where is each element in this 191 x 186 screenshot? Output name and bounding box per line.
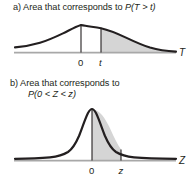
panel-b-axis-label: Z xyxy=(178,155,186,166)
panel-b-plot: Z 0 z xyxy=(0,98,191,186)
panel-a-density-curve xyxy=(15,25,176,52)
panel-a-tick-label-t: t xyxy=(99,57,102,68)
panel-a-caption-formula: P(T > t) xyxy=(125,2,155,12)
panel-a-plot: T 0 t xyxy=(0,14,191,76)
panel-a-caption: a) Area that corresponds to P(T > t) xyxy=(13,2,155,13)
panel-b-tick-label-z: z xyxy=(118,165,124,176)
panel-b-caption-line1: b) Area that corresponds to xyxy=(10,78,119,89)
figure-panel-a: a) Area that corresponds to P(T > t) T 0… xyxy=(0,0,191,76)
panel-b-tick-label-0: 0 xyxy=(89,165,94,176)
panel-a-axis-label: T xyxy=(179,47,186,58)
panel-a-tick-label-0: 0 xyxy=(78,57,83,68)
panel-a-caption-text: a) Area that corresponds to xyxy=(13,2,125,12)
